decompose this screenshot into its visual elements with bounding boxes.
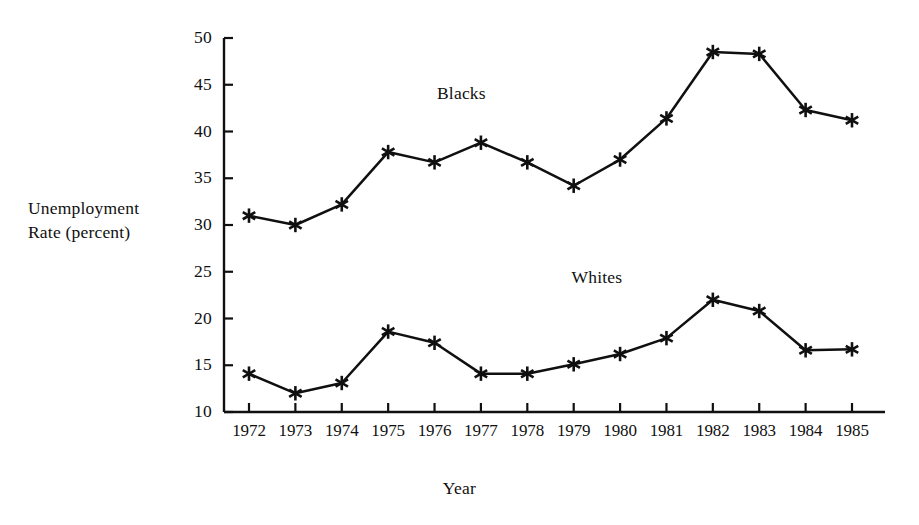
marker-center: [293, 391, 297, 395]
y-tick-label: 25: [172, 263, 212, 281]
x-axis-title: Year: [0, 478, 919, 499]
x-tick-label: 1980: [594, 422, 646, 439]
marker-center: [850, 347, 854, 351]
marker-center: [804, 348, 808, 352]
data-point-marker: [243, 366, 255, 380]
data-point-marker: [521, 155, 533, 169]
series-label-blacks: Blacks: [437, 85, 486, 103]
marker-center: [618, 158, 622, 162]
marker-center: [340, 202, 344, 206]
unemployment-rate-line-chart: Unemployment Rate (percent) 101520253035…: [0, 0, 919, 525]
series-blacks: [243, 45, 858, 232]
marker-center: [757, 309, 761, 313]
y-tick-label: 20: [172, 310, 212, 328]
marker-center: [525, 160, 529, 164]
x-tick-label: 1972: [223, 422, 275, 439]
y-tick-label: 50: [172, 29, 212, 47]
x-tick-label: 1974: [316, 422, 368, 439]
y-tick-label: 45: [172, 76, 212, 94]
marker-center: [618, 352, 622, 356]
marker-center: [525, 372, 529, 376]
x-tick-label: 1982: [687, 422, 739, 439]
marker-center: [340, 381, 344, 385]
plot-area: [0, 0, 919, 525]
y-tick-label: 15: [172, 356, 212, 374]
data-point-marker: [475, 136, 487, 150]
x-tick-label: 1975: [362, 422, 414, 439]
y-tick-label: 10: [172, 403, 212, 421]
marker-center: [711, 298, 715, 302]
marker-center: [293, 223, 297, 227]
x-tick-label: 1979: [548, 422, 600, 439]
marker-center: [711, 50, 715, 54]
marker-center: [386, 150, 390, 154]
x-tick-label: 1977: [455, 422, 507, 439]
x-tick-label: 1985: [826, 422, 878, 439]
marker-center: [757, 52, 761, 56]
x-tick-label: 1973: [269, 422, 321, 439]
marker-center: [247, 372, 251, 376]
marker-center: [850, 118, 854, 122]
marker-center: [386, 330, 390, 334]
series-line: [249, 52, 852, 225]
x-tick-label: 1981: [640, 422, 692, 439]
marker-center: [433, 160, 437, 164]
x-tick-label: 1984: [780, 422, 832, 439]
y-tick-label: 40: [172, 123, 212, 141]
marker-center: [572, 362, 576, 366]
marker-center: [247, 214, 251, 218]
x-tick-label: 1976: [409, 422, 461, 439]
y-tick-label: 30: [172, 216, 212, 234]
y-tick-label: 35: [172, 169, 212, 187]
marker-center: [572, 184, 576, 188]
marker-center: [804, 108, 808, 112]
series-label-whites: Whites: [572, 269, 623, 287]
marker-center: [479, 372, 483, 376]
marker-center: [664, 116, 668, 120]
marker-center: [664, 336, 668, 340]
marker-center: [433, 341, 437, 345]
x-tick-label: 1978: [501, 422, 553, 439]
series-whites: [243, 293, 858, 401]
axes-group: [224, 38, 885, 412]
data-point-marker: [567, 179, 579, 193]
series-group: [243, 45, 858, 401]
x-tick-label: 1983: [733, 422, 785, 439]
marker-center: [479, 141, 483, 145]
